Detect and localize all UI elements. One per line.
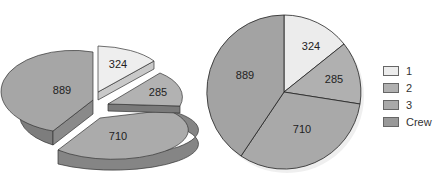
legend-item-1: 1 xyxy=(383,63,432,79)
legend-label-crew: Crew xyxy=(406,116,432,128)
legend-swatch-2 xyxy=(383,83,399,93)
pie-flat: 324 285 710 889 xyxy=(207,15,364,173)
pie3d-label-2: 285 xyxy=(149,86,167,98)
legend: 1 2 3 Crew xyxy=(383,63,432,131)
pie-label-1: 324 xyxy=(302,40,320,52)
legend-item-3: 3 xyxy=(383,97,432,113)
legend-swatch-crew xyxy=(383,117,399,127)
legend-swatch-1 xyxy=(383,66,399,76)
pie-3d: 324 285 710 889 xyxy=(1,46,198,170)
pie3d-label-1: 324 xyxy=(109,58,127,70)
pie3d-slice-crew xyxy=(1,50,93,145)
pie-label-2: 285 xyxy=(325,73,343,85)
legend-label-2: 2 xyxy=(406,82,412,94)
legend-swatch-3 xyxy=(383,100,399,110)
pie3d-label-3: 710 xyxy=(109,130,127,142)
pie3d-label-crew: 889 xyxy=(53,84,71,96)
pie-label-3: 710 xyxy=(293,123,311,135)
legend-item-2: 2 xyxy=(383,80,432,96)
pie-label-crew: 889 xyxy=(236,69,254,81)
charts-canvas: 324 285 710 889 324 285 710 889 xyxy=(0,0,445,184)
legend-label-1: 1 xyxy=(406,65,412,77)
legend-item-crew: Crew xyxy=(383,114,432,130)
legend-label-3: 3 xyxy=(406,99,412,111)
